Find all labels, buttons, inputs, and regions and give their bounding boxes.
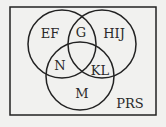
region-label-g: G [76, 25, 86, 40]
region-label-ef: EF [41, 26, 60, 41]
region-label-kl: KL [91, 63, 110, 78]
region-label-m: M [75, 86, 88, 101]
universe-label-prs: PRS [116, 96, 143, 111]
region-label-n: N [54, 58, 65, 73]
venn-diagram: EF G HIJ N KL M PRS [0, 0, 166, 127]
region-label-hij: HIJ [103, 26, 125, 41]
